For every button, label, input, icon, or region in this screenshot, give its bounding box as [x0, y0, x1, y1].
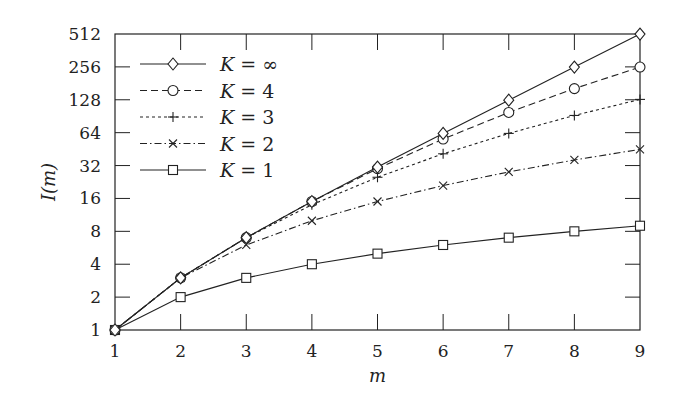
legend: K = ∞K = 4K = 3K = 2K = 1 — [140, 53, 278, 181]
y-tick-label: 512 — [69, 24, 101, 44]
y-tick-label: 4 — [90, 254, 101, 274]
legend-entry: K = 1 — [219, 159, 274, 181]
x-tick-label: 7 — [503, 341, 514, 361]
x-tick-label: 9 — [635, 341, 646, 361]
legend-entry: K = ∞ — [219, 53, 278, 75]
y-tick-label: 64 — [79, 123, 101, 143]
y-tick-label: 32 — [79, 156, 101, 176]
legend-entry: K = 4 — [219, 80, 274, 102]
y-tick-label: 1 — [90, 320, 101, 340]
legend-entry: K = 2 — [219, 133, 274, 155]
y-tick-label: 2 — [90, 287, 101, 307]
x-tick-label: 8 — [569, 341, 580, 361]
x-tick-label: 5 — [372, 341, 383, 361]
legend-entry: K = 3 — [219, 106, 274, 128]
y-axis-label: I(m) — [38, 163, 59, 202]
x-tick-label: 2 — [175, 341, 186, 361]
y-tick-label: 8 — [90, 221, 101, 241]
line-chart: 1234567891248163264128256512mI(m)K = ∞K … — [0, 0, 678, 410]
y-tick-label: 128 — [69, 90, 101, 110]
x-tick-label: 6 — [438, 341, 449, 361]
x-axis-label: m — [369, 365, 386, 386]
x-tick-label: 4 — [306, 341, 317, 361]
x-tick-label: 3 — [241, 341, 252, 361]
series-plus — [110, 94, 645, 335]
y-tick-label: 16 — [79, 188, 101, 208]
y-tick-label: 256 — [69, 57, 101, 77]
x-tick-label: 1 — [110, 341, 121, 361]
